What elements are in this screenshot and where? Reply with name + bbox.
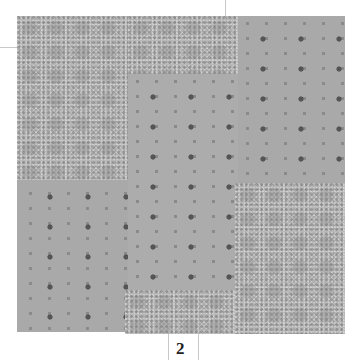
- guide-line-bottom-2: [198, 333, 199, 360]
- quilt-block: [17, 16, 345, 334]
- patch-bottom-right-floral: [235, 183, 345, 334]
- patch-top-left-floral: [17, 16, 128, 180]
- patch-bottom-left-dotted: [17, 180, 128, 332]
- patch-top-right-dotted: [238, 16, 345, 183]
- patch-top-center-floral: [128, 16, 238, 74]
- guide-line-bottom-1: [168, 333, 169, 360]
- patch-center-dotted: [128, 74, 238, 290]
- patch-bottom-center-floral: [125, 290, 238, 334]
- figure-number: 2: [176, 339, 185, 359]
- guide-line-top: [225, 0, 226, 17]
